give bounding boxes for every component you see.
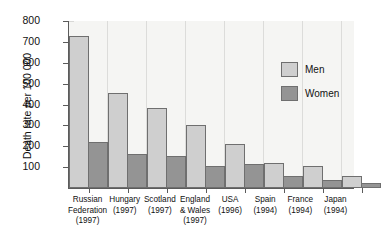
x-category-line: (1994): [248, 206, 283, 217]
x-category-label: France(1994): [283, 195, 318, 227]
legend-swatch-women: [281, 86, 298, 101]
y-tick-label: 300: [10, 119, 40, 130]
x-tick-mark: [128, 188, 129, 193]
x-category-line: (1994): [283, 206, 318, 217]
bar-women: [205, 166, 225, 188]
x-tick-mark: [206, 188, 207, 193]
bar-group: [69, 21, 108, 188]
legend-item: Women: [281, 86, 373, 101]
x-category-label: England& Wales(1997): [177, 195, 212, 227]
x-axis-category-labels: RussianFederation(1997)Hungary(1997)Scot…: [68, 195, 353, 227]
bar-men: [186, 125, 206, 188]
x-category-line: USA: [213, 195, 248, 206]
bar-women: [88, 142, 108, 188]
bar-group: [147, 21, 186, 188]
x-category-line: (1997): [107, 206, 142, 217]
x-category-label: Spain(1994): [248, 195, 283, 227]
x-category-line: England: [177, 195, 212, 206]
x-tick-mark: [284, 188, 285, 193]
bar-women: [166, 156, 186, 188]
x-category-line: France: [283, 195, 318, 206]
x-category-label: Hungary(1997): [107, 195, 142, 227]
x-category-line: Spain: [248, 195, 283, 206]
x-tick-mark: [245, 188, 246, 193]
x-tick-mark: [362, 188, 363, 193]
x-category-line: Federation: [68, 206, 107, 217]
bar-women: [283, 176, 303, 188]
legend-label: Women: [305, 88, 339, 99]
bar-group: [108, 21, 147, 188]
legend-label: Men: [305, 64, 324, 75]
x-category-line: & Wales: [177, 206, 212, 217]
y-tick-label: 500: [10, 78, 40, 89]
legend-swatch-men: [281, 62, 298, 77]
x-category-line: Hungary: [107, 195, 142, 206]
y-tick-label: 700: [10, 36, 40, 47]
y-tick-label: 600: [10, 57, 40, 68]
y-tick-label: 400: [10, 99, 40, 110]
bar-women: [361, 183, 381, 188]
y-tick-label: 100: [10, 161, 40, 172]
bar-men: [264, 163, 284, 188]
x-category-label: RussianFederation(1997): [68, 195, 107, 227]
x-tick-mark: [89, 188, 90, 193]
x-category-line: Russian: [68, 195, 107, 206]
x-tick-mark: [167, 188, 168, 193]
x-category-line: Japan: [318, 195, 353, 206]
x-category-label: Scotland(1997): [142, 195, 177, 227]
bar-men: [108, 93, 128, 188]
x-category-label: Japan(1994): [318, 195, 353, 227]
chart-legend: MenWomen: [281, 62, 373, 110]
x-category-line: (1994): [318, 206, 353, 217]
bar-men: [303, 166, 323, 188]
bar-men: [225, 144, 245, 188]
bar-group: [225, 21, 264, 188]
y-tick-label: 800: [10, 15, 40, 26]
bar-men: [69, 36, 89, 188]
y-tick-label: 200: [10, 140, 40, 151]
x-category-line: Scotland: [142, 195, 177, 206]
bar-women: [322, 180, 342, 188]
x-category-line: (1997): [177, 216, 212, 227]
x-category-label: USA(1996): [213, 195, 248, 227]
x-tick-mark: [323, 188, 324, 193]
bar-women: [244, 164, 264, 188]
bar-men: [147, 108, 167, 188]
x-category-line: (1996): [213, 206, 248, 217]
legend-item: Men: [281, 62, 373, 77]
x-category-line: (1997): [142, 206, 177, 217]
x-category-line: (1997): [68, 216, 107, 227]
bar-group: [186, 21, 225, 188]
bar-women: [127, 154, 147, 188]
bar-men: [342, 176, 362, 188]
